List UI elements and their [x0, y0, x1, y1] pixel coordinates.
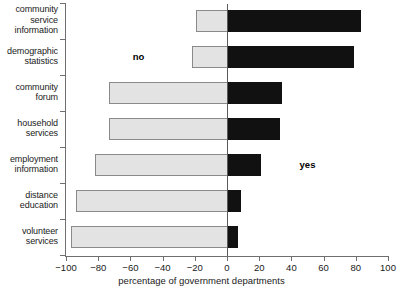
y-axis-tick	[60, 183, 66, 184]
category-label-line: household	[0, 118, 58, 129]
y-axis-tick	[60, 147, 66, 148]
bar-segment-no	[109, 82, 228, 104]
category-label-line: statistics	[0, 56, 58, 67]
category-label-line: education	[0, 200, 58, 211]
bar-segment-yes	[227, 10, 361, 32]
category-label-line: demographic	[0, 46, 58, 57]
x-axis-tick	[259, 256, 260, 261]
category-label-line: forum	[0, 92, 58, 103]
x-axis-tick	[66, 256, 67, 261]
category-label-line: services	[0, 128, 58, 139]
category-label-line: services	[0, 236, 58, 247]
bar-segment-no	[192, 46, 228, 68]
category-label-line: service	[0, 15, 58, 26]
category-label: employmentinformation	[0, 154, 58, 175]
x-axis-tick	[195, 256, 196, 261]
x-axis-tick-label: −80	[90, 262, 106, 273]
x-axis-tick-label: 80	[351, 262, 362, 273]
y-axis-tick	[60, 3, 66, 4]
annotation-yes: yes	[300, 159, 316, 170]
category-label-line: volunteer	[0, 226, 58, 237]
bar-segment-yes	[227, 82, 282, 104]
bar-segment-no	[95, 154, 228, 176]
x-axis-tick-label: 0	[224, 262, 229, 273]
zero-reference-line	[227, 4, 228, 257]
bar-segment-no	[76, 190, 228, 212]
x-axis-tick	[324, 256, 325, 261]
y-axis-tick	[60, 255, 66, 256]
category-label: distanceeducation	[0, 190, 58, 211]
category-label-line: information	[0, 25, 58, 36]
category-axis-labels: communityserviceinformationdemographicst…	[0, 4, 62, 256]
category-label-line: distance	[0, 190, 58, 201]
x-axis-title: percentage of government departments	[0, 275, 403, 286]
bar-segment-yes	[227, 154, 261, 176]
y-axis-tick	[60, 39, 66, 40]
bar-segment-yes	[227, 226, 238, 248]
bar-segment-no	[71, 226, 228, 248]
category-label: householdservices	[0, 118, 58, 139]
y-axis-tick	[60, 219, 66, 220]
x-axis-tick	[356, 256, 357, 261]
annotation-no: no	[133, 51, 145, 62]
bar-segment-yes	[227, 46, 354, 68]
x-axis-tick	[130, 256, 131, 261]
category-label-line: community	[0, 82, 58, 93]
bar-segment-no	[196, 10, 228, 32]
bar-segment-yes	[227, 190, 241, 212]
x-axis-tick-label: −40	[155, 262, 171, 273]
x-axis-tick	[163, 256, 164, 261]
bar-segment-no	[109, 118, 228, 140]
category-label: communityforum	[0, 82, 58, 103]
x-axis-tick-label: 20	[254, 262, 265, 273]
y-axis-tick	[60, 75, 66, 76]
category-label-line: employment	[0, 154, 58, 165]
bar-segment-yes	[227, 118, 280, 140]
category-label-line: community	[0, 4, 58, 15]
category-label: communityserviceinformation	[0, 4, 58, 36]
x-axis-tick	[98, 256, 99, 261]
x-axis-tick	[227, 256, 228, 261]
category-label-line: information	[0, 164, 58, 175]
x-axis-tick-label: 100	[380, 262, 396, 273]
category-label: volunteerservices	[0, 226, 58, 247]
x-axis-tick	[291, 256, 292, 261]
y-axis-tick	[60, 111, 66, 112]
category-label: demographicstatistics	[0, 46, 58, 67]
x-axis-tick	[388, 256, 389, 261]
x-axis-tick-label: −60	[122, 262, 138, 273]
x-axis-tick-label: 60	[318, 262, 329, 273]
x-axis-tick-label: −100	[55, 262, 76, 273]
chart-container: communityserviceinformationdemographicst…	[0, 0, 403, 289]
x-axis-tick-label: 40	[286, 262, 297, 273]
x-axis-tick-label: −20	[187, 262, 203, 273]
